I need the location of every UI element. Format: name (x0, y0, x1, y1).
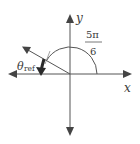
y-axis-up-arrow-icon (66, 14, 74, 23)
angle-denominator: 6 (90, 46, 96, 57)
terminal-ray-arrow-icon (22, 47, 31, 55)
reference-angle-diagram: y x 5π 6 θ ref (0, 0, 140, 144)
y-axis (66, 14, 74, 136)
angle-numerator: 5π (86, 29, 99, 40)
x-axis-label: x (124, 81, 131, 95)
x-axis-left-arrow-icon (8, 70, 17, 78)
reference-angle-symbol: θ (17, 60, 24, 73)
reference-angle-subscript: ref (24, 64, 36, 73)
reference-angle-bold-arrow-icon (36, 59, 46, 76)
y-axis-label: y (75, 11, 83, 25)
y-axis-down-arrow-icon (66, 127, 74, 136)
x-axis-right-arrow-icon (123, 70, 132, 78)
